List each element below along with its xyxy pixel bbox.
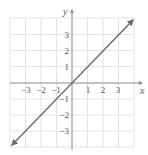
y-tick-label: −3 (59, 126, 69, 136)
x-tick-labels: −3 −2 −1 1 2 3 (21, 85, 121, 95)
y-tick-label: −2 (59, 110, 69, 120)
y-tick-label: 3 (65, 30, 70, 40)
y-tick-label: 1 (65, 62, 70, 72)
x-tick-label: −3 (21, 85, 31, 95)
y-axis-label: y (62, 6, 68, 17)
x-tick-label: 3 (116, 85, 121, 95)
x-axis-label: x (139, 85, 145, 96)
x-tick-label: −2 (36, 85, 46, 95)
x-tick-label: 1 (86, 85, 91, 95)
y-tick-label: 2 (65, 46, 70, 56)
x-tick-label: 2 (101, 85, 106, 95)
coordinate-plane: x y −3 −2 −1 1 2 3 3 2 1 −1 −2 −3 (0, 0, 148, 155)
